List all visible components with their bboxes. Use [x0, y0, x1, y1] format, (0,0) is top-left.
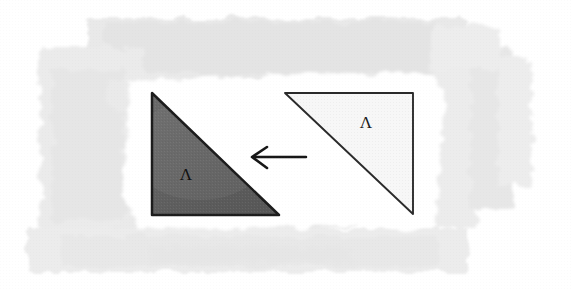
geometry-figure: Λ Λ	[0, 0, 573, 290]
paper-grain-overlay	[0, 0, 573, 290]
diagram-canvas: Λ Λ	[0, 0, 573, 290]
